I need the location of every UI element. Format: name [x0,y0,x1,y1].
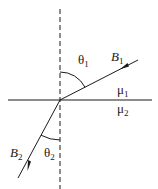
mu2-label: μ2 [117,101,128,118]
theta1-arc [60,72,85,87]
arrow-b2-icon [28,160,32,171]
theta2-label: θ2 [44,145,55,162]
refraction-diagram: θ1 B1 μ1 μ2 B2 θ2 [0,0,158,189]
b1-label: B1 [111,49,123,66]
theta2-arc [41,135,60,140]
theta1-label: θ1 [78,52,89,69]
b2-label: B2 [10,145,22,162]
field-line-b2 [18,100,60,178]
mu1-label: μ1 [117,82,128,99]
